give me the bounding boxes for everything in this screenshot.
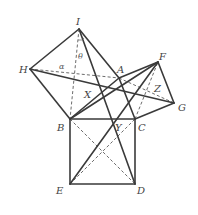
- label-Y: Y: [115, 122, 123, 133]
- edge-IA: [79, 29, 119, 78]
- geometry-diagram: I H A F G B C E D X Y Z α θ: [0, 0, 198, 215]
- label-I: I: [75, 16, 81, 27]
- label-D: D: [136, 185, 145, 196]
- label-A: A: [116, 64, 124, 75]
- label-C: C: [138, 122, 146, 133]
- label-E: E: [55, 185, 64, 196]
- label-theta: θ: [78, 52, 83, 61]
- label-alpha: α: [59, 62, 65, 71]
- label-X: X: [83, 89, 92, 100]
- label-F: F: [158, 51, 167, 62]
- label-Z: Z: [153, 83, 162, 94]
- label-G: G: [178, 102, 186, 113]
- edge-HI: [30, 29, 79, 69]
- label-B: B: [56, 122, 64, 133]
- diagram-svg: I H A F G B C E D X Y Z α θ: [0, 0, 198, 215]
- label-H: H: [18, 64, 28, 75]
- edge-GC: [135, 103, 174, 119]
